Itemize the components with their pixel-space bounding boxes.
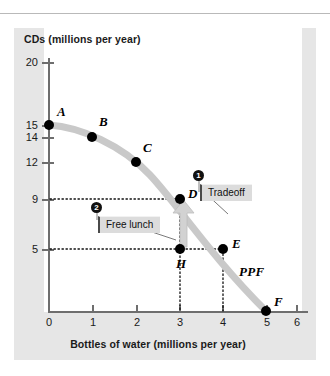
tradeoff-badge-1: 1 [193, 170, 204, 181]
x-ticklabel-5: 5 [257, 316, 277, 328]
point-label-h: H [176, 256, 186, 272]
y-ticklabel-20-wrap: 20 [14, 56, 38, 68]
y-ticklabel-20: 20 [16, 56, 38, 68]
x-ticklabel-4: 4 [213, 316, 233, 328]
y-axis-line [48, 58, 50, 313]
x-axis-line [48, 311, 308, 313]
x-tick-4 [222, 305, 224, 313]
y-tick-15 [42, 125, 54, 127]
y-ticklabel-9: 9 [16, 193, 38, 205]
x-tick-6 [296, 305, 298, 313]
x-tick-1 [92, 305, 94, 313]
x-tick-3 [179, 305, 181, 313]
y-ticklabel-5: 5 [16, 243, 38, 255]
y-ticklabel-9-wrap: 9 [14, 193, 38, 205]
y-ticklabel-14-wrap: 14 [14, 131, 38, 143]
point-label-e: E [232, 236, 241, 252]
y-ticklabel-15-wrap: 15 [14, 119, 38, 131]
y-ticklabel-12: 12 [16, 156, 38, 168]
y-axis-title: CDs (millions per year) [24, 33, 141, 45]
point-label-a: A [57, 104, 66, 120]
y-tick-5 [42, 249, 54, 251]
x-tick-5 [266, 305, 268, 313]
y-ticklabel-14: 14 [16, 131, 38, 143]
y-ticklabel-12-wrap: 12 [14, 156, 38, 168]
x-ticklabel-2: 2 [127, 316, 147, 328]
tradeoff-callout[interactable]: Tradeoff [200, 184, 252, 201]
x-ticklabel-6: 6 [287, 316, 307, 328]
ppf-figure: CDs (millions per year) Bottles of water… [0, 0, 330, 376]
free-lunch-badge-2: 2 [91, 202, 102, 213]
x-axis-title: Bottles of water (millions per year) [0, 338, 316, 350]
point-label-f: F [274, 294, 283, 310]
top-divider-rule [0, 13, 330, 14]
y-tick-12 [42, 162, 54, 164]
point-label-b: B [99, 114, 108, 130]
y-tick-20 [42, 62, 54, 64]
y-ticklabel-5-wrap: 5 [14, 243, 38, 255]
ppf-curve-label: PPF [239, 264, 264, 280]
y-ticklabel-15: 15 [16, 119, 38, 131]
x-ticklabel-3: 3 [170, 316, 190, 328]
x-ticklabel-0: 0 [39, 316, 59, 328]
y-tick-14 [42, 137, 54, 139]
x-ticklabel-1: 1 [83, 316, 103, 328]
x-tick-2 [136, 305, 138, 313]
free-lunch-callout[interactable]: Free lunch [98, 216, 160, 233]
y-tick-9 [42, 199, 54, 201]
point-label-c: C [143, 140, 152, 156]
point-label-d: D [188, 186, 197, 202]
